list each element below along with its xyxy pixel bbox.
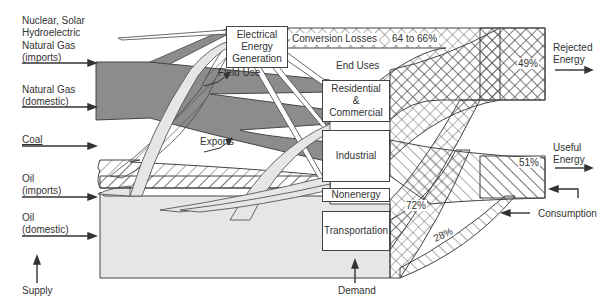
source-nuclear-label: Nuclear, Solar Hydroelectric [22,15,85,39]
source-coal-label: Coal [22,134,43,146]
useful-energy-label: Useful Energy [553,142,585,166]
node-industrial: Industrial [322,130,390,182]
source-oil-domestic-label: Oil (domestic) [22,212,69,236]
useful-pct: 51% [518,157,540,168]
node-residential-commercial: Residential & Commercial [322,80,390,122]
node-transportation: Transportation [322,211,390,251]
rejected-energy-label: Rejected Energy [553,42,592,66]
supply-label: Supply [22,285,53,297]
field-use-label: Field Use [218,67,260,79]
exports-label: Exports [200,136,234,148]
node-electrical-generation: Electrical Energy Generation [226,26,288,68]
end-uses-label: End Uses [336,60,379,72]
source-gas-domestic-label: Natural Gas (domestic) [22,84,75,108]
demand-label: Demand [338,285,376,297]
consumption-label: Consumption [538,208,597,220]
rejected-pct: 49% [517,58,539,69]
source-gas-imports-label: Natural Gas (imports) [22,40,75,64]
energy-flow-diagram [0,0,614,306]
conversion-losses-label: Conversion Losses [290,33,379,45]
transport-rejected-pct: 72% [405,200,427,211]
conversion-losses-pct: 64 to 66% [390,33,439,45]
node-nonenergy: Nonenergy [322,188,390,202]
source-oil-imports-label: Oil (imports) [22,173,61,197]
